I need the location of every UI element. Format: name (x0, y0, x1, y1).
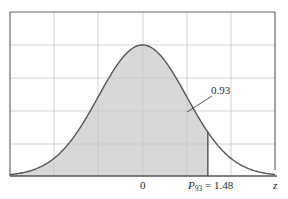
percentile-label: P93 = 1.48 (187, 179, 234, 193)
area-label: 0.93 (211, 84, 231, 96)
zero-tick-label: 0 (140, 179, 146, 191)
shaded-area (10, 45, 208, 176)
normal-distribution-chart: 0.93 0 P93 = 1.48 z (0, 0, 288, 199)
z-axis-label: z (272, 179, 278, 191)
